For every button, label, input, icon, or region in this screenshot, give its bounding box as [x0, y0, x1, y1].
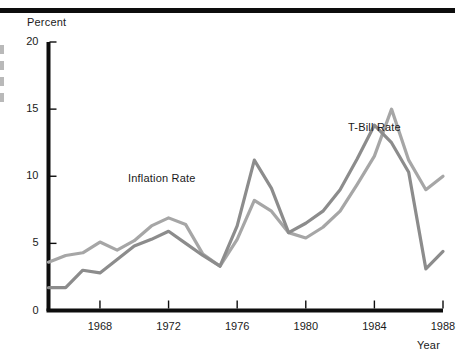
y-tick-label: 15 [17, 103, 39, 114]
x-tick-label: 1972 [148, 321, 190, 332]
figure-container: Percent Year 05101520 196819721976198019… [0, 0, 463, 362]
y-tick-label: 20 [17, 36, 39, 47]
y-tick-label: 5 [17, 237, 39, 248]
series-label-t-bill-rate: T-Bill Rate [348, 121, 401, 133]
y-tick-label: 0 [17, 305, 39, 316]
x-tick-label: 1976 [216, 321, 258, 332]
x-tick-label: 1984 [353, 321, 395, 332]
x-tick-label: 1968 [79, 321, 121, 332]
x-tick-label: 1988 [422, 321, 463, 332]
y-axis-ticks [50, 42, 57, 311]
series-line-inflation-rate [49, 125, 444, 287]
x-axis-ticks [100, 301, 443, 309]
chart-plot [0, 0, 463, 362]
series-label-inflation-rate: Inflation Rate [128, 172, 196, 184]
x-tick-label: 1980 [285, 321, 327, 332]
y-tick-label: 10 [17, 170, 39, 181]
